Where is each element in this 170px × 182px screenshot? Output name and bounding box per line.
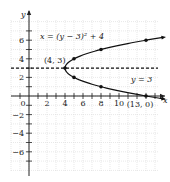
equation-label: x = (y − 3)² + 4 <box>40 32 104 41</box>
x-tick-label: 0 <box>20 99 25 108</box>
y-tick-label: 6 <box>19 36 24 45</box>
x-tick-label: 6 <box>80 99 85 108</box>
x-tick-label: 4 <box>62 99 67 108</box>
y-tick-label: −4 <box>12 129 24 138</box>
x-tick-label: 2 <box>44 99 49 108</box>
y-tick-label: −6 <box>12 148 24 157</box>
y-axis-label: y <box>20 10 26 19</box>
data-point <box>63 66 67 70</box>
data-point <box>144 38 148 42</box>
data-point <box>144 94 148 98</box>
x-tick-label: 10 <box>114 99 124 108</box>
y-axis-arrow-icon <box>27 10 31 15</box>
curve-arrow-icon <box>161 36 166 40</box>
y-tick-label: −2 <box>12 111 24 120</box>
y-tick-label: 4 <box>19 55 24 64</box>
series <box>11 36 166 101</box>
data-point <box>72 57 76 61</box>
x-tick-label: 8 <box>98 99 103 108</box>
data-point <box>72 76 76 80</box>
parabola-chart: 0246810642−2−4−6 x = (y − 3)² + 4 y = 3 … <box>0 0 170 182</box>
asymptote-label: y = 3 <box>130 75 152 84</box>
x-axis-label: x <box>163 96 168 105</box>
data-point <box>99 85 103 89</box>
data-point <box>99 48 103 52</box>
vertex-label: (4, 3) <box>44 56 66 65</box>
x-intercept-label: (13, 0) <box>127 100 154 109</box>
y-tick-label: 2 <box>19 73 24 82</box>
